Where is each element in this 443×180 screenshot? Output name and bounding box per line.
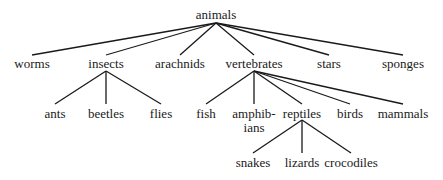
node-amphibians-line2: ians — [232, 121, 275, 134]
node-amphibians-line1: amphib- — [232, 107, 275, 120]
edge-animals-sponges — [216, 23, 403, 55]
edge-vertebrates-mammals — [254, 71, 403, 104]
node-birds: birds — [337, 107, 363, 120]
node-flies: flies — [150, 107, 172, 120]
node-worms: worms — [14, 57, 49, 70]
edge-vertebrates-birds — [254, 71, 350, 104]
node-animals: animals — [196, 8, 236, 21]
edge-insects-flies — [106, 71, 161, 104]
tree-edges — [0, 0, 443, 180]
edge-reptiles-crocodiles — [302, 120, 351, 153]
edge-insects-ants — [55, 71, 106, 104]
node-amphibians: amphib- ians — [232, 107, 275, 134]
node-stars: stars — [317, 57, 341, 70]
node-arachnids: arachnids — [155, 57, 205, 70]
node-vertebrates: vertebrates — [225, 57, 282, 70]
node-beetles: beetles — [88, 107, 124, 120]
node-sponges: sponges — [382, 57, 424, 70]
node-crocodiles: crocodiles — [324, 156, 377, 169]
node-fish: fish — [196, 107, 216, 120]
node-reptiles: reptiles — [283, 107, 321, 120]
node-insects: insects — [88, 57, 123, 70]
node-snakes: snakes — [236, 156, 271, 169]
node-lizards: lizards — [285, 156, 320, 169]
node-ants: ants — [45, 107, 66, 120]
node-mammals: mammals — [378, 107, 429, 120]
edge-vertebrates-fish — [206, 71, 254, 104]
taxonomy-tree-diagram: animals worms insects arachnids vertebra… — [0, 0, 443, 180]
